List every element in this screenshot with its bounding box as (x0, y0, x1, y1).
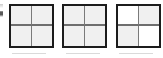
square-1-cell-r1-c1[interactable] (32, 26, 53, 46)
baseline-smudge-3 (119, 53, 153, 54)
baseline-smudge-1 (12, 53, 46, 54)
square-2-cell-r1-c1[interactable] (85, 26, 106, 46)
baseline-smudge-2 (66, 53, 100, 54)
corner-speck-artifact (0, 4, 3, 17)
square-1-cell-r0-c1[interactable] (32, 6, 53, 26)
square-2-cell-r0-c1[interactable] (85, 6, 106, 26)
square-3-cell-r0-c0[interactable] (118, 6, 139, 26)
square-3-cell-r1-c0[interactable] (118, 26, 139, 46)
square-3-cell-r1-c1[interactable] (139, 26, 160, 46)
square-2-cell-r1-c0[interactable] (64, 26, 85, 46)
figure-canvas (0, 0, 163, 58)
square-2-cell-r0-c0[interactable] (64, 6, 85, 26)
grid-square-2[interactable] (62, 4, 107, 48)
square-3-cell-r0-c1[interactable] (139, 6, 160, 26)
grid-square-3[interactable] (116, 4, 161, 48)
square-1-cell-r0-c0[interactable] (11, 6, 32, 26)
square-1-cell-r1-c0[interactable] (11, 26, 32, 46)
grid-square-1[interactable] (9, 4, 54, 48)
